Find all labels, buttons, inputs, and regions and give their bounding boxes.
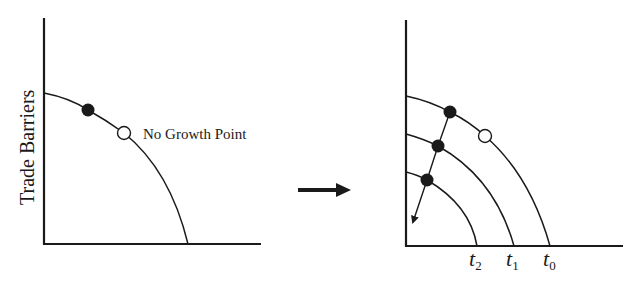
diagram-canvas: Trade Barriers No Growth Point t2 t1 t0: [0, 0, 642, 284]
no-growth-point-t0-icon: [479, 130, 492, 143]
label-t0: t0: [543, 246, 556, 273]
label-t2: t2: [469, 246, 482, 273]
trend-arrow-icon: [413, 180, 427, 222]
filled-point-t1-icon: [432, 140, 445, 153]
curve-t1: [406, 134, 514, 246]
curve-t0: [406, 96, 550, 246]
no-growth-point-icon: [118, 127, 131, 140]
filled-point-t0-icon: [444, 106, 457, 119]
left-frontier-curve: [44, 93, 188, 244]
filled-point-t2-icon: [421, 174, 434, 187]
label-t1: t1: [506, 246, 519, 273]
right-panel: t2 t1 t0: [405, 20, 623, 273]
filled-point-icon: [82, 104, 95, 117]
left-panel: Trade Barriers No Growth Point: [16, 18, 261, 245]
no-growth-point-label: No Growth Point: [143, 126, 247, 142]
transition-arrow-icon: [298, 183, 351, 197]
y-axis-label: Trade Barriers: [16, 89, 38, 205]
